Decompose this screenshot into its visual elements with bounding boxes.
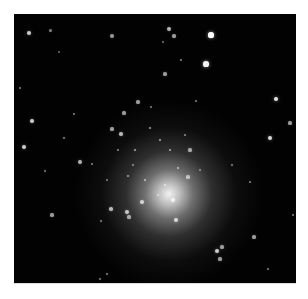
star (163, 72, 166, 75)
star (58, 51, 60, 53)
star (63, 137, 66, 140)
star (110, 127, 113, 130)
star (127, 215, 130, 218)
star (19, 87, 22, 90)
star (50, 213, 53, 216)
star (109, 207, 113, 211)
star (119, 132, 123, 136)
star (188, 148, 191, 151)
star (136, 100, 139, 103)
cluster-core-glow (74, 99, 264, 284)
star (180, 59, 183, 62)
star (274, 97, 279, 102)
star (78, 160, 82, 164)
star (215, 249, 219, 253)
star (99, 278, 102, 281)
star (267, 268, 270, 271)
star (162, 41, 164, 43)
star (49, 29, 52, 32)
star (288, 121, 291, 124)
star (172, 34, 175, 37)
star (203, 61, 208, 66)
star (252, 235, 255, 238)
star (73, 113, 76, 116)
star (292, 214, 295, 217)
star (30, 119, 34, 123)
star (208, 32, 213, 37)
star (110, 34, 114, 38)
star (268, 136, 272, 140)
star (195, 100, 198, 103)
star (186, 175, 189, 178)
star (106, 273, 109, 276)
star (44, 170, 47, 173)
star (171, 198, 175, 202)
star (167, 27, 171, 31)
star (218, 257, 221, 260)
star-cluster-photo (14, 14, 296, 284)
star (140, 200, 144, 204)
star (174, 218, 178, 222)
star (22, 145, 26, 149)
star (220, 245, 223, 248)
star (125, 210, 129, 214)
star (122, 111, 125, 114)
star (27, 31, 31, 35)
